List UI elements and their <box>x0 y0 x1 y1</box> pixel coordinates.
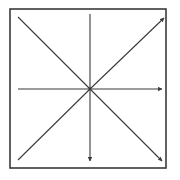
ray-up-left-line <box>18 17 90 89</box>
ray-group <box>18 14 164 161</box>
arrow-star-diagram <box>0 0 180 180</box>
ray-down-right-arrow <box>90 89 162 161</box>
center-point <box>89 88 92 91</box>
ray-up-right-arrow <box>90 18 164 89</box>
ray-down-left-line <box>18 89 90 160</box>
